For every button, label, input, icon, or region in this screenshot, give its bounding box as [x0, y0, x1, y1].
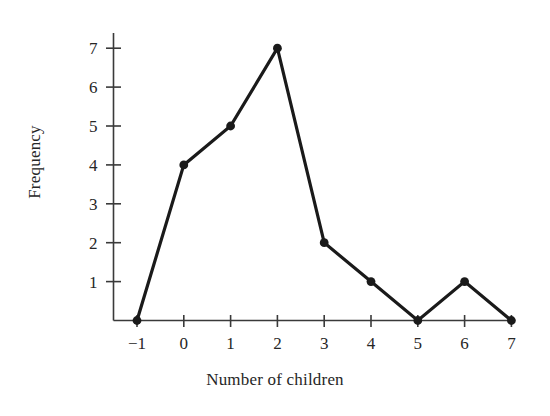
data-point — [179, 161, 188, 170]
x-tick-label: −1 — [128, 334, 146, 353]
data-point — [507, 316, 516, 325]
x-tick-label: 7 — [507, 334, 516, 353]
data-point — [133, 316, 142, 325]
plot-area: 1234567 −101234567 — [0, 0, 550, 416]
x-tick-label: 4 — [367, 334, 376, 353]
y-tick-label: 5 — [89, 117, 98, 136]
y-axis-label-container: Frequency — [12, 0, 52, 416]
y-tick-label: 1 — [89, 273, 98, 292]
y-tick-label: 2 — [89, 234, 98, 253]
y-tick-label: 7 — [89, 39, 98, 58]
x-tick-label: 3 — [320, 334, 329, 353]
x-axis-label: Number of children — [0, 370, 550, 390]
x-tick-label: 5 — [414, 334, 423, 353]
y-tick-label: 4 — [89, 156, 98, 175]
data-point — [460, 277, 469, 286]
data-point — [367, 277, 376, 286]
x-tick-label: 0 — [180, 334, 189, 353]
data-point — [413, 316, 422, 325]
data-point — [320, 238, 329, 247]
x-tick-label: 2 — [273, 334, 282, 353]
y-tick-label: 6 — [89, 78, 98, 97]
x-tick-label: 1 — [226, 334, 235, 353]
data-point — [273, 44, 282, 53]
chart-background — [0, 0, 550, 416]
data-point — [226, 122, 235, 131]
x-tick-label: 6 — [460, 334, 469, 353]
y-tick-label: 3 — [89, 195, 98, 214]
frequency-polygon-chart: 1234567 −101234567 Frequency Number of c… — [0, 0, 550, 416]
y-axis-label: Frequency — [25, 107, 45, 217]
